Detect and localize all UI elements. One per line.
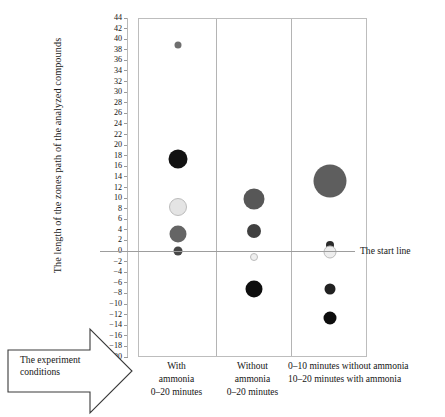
data-bubble bbox=[247, 224, 261, 238]
y-axis-title: The length of the zones path of the anal… bbox=[52, 16, 63, 296]
y-tick-label: 8 bbox=[118, 204, 124, 212]
y-tick-label: 20 bbox=[114, 141, 124, 149]
y-tick-label: 10 bbox=[114, 194, 124, 202]
data-bubble bbox=[313, 164, 346, 197]
data-bubble bbox=[168, 150, 187, 169]
data-bubble bbox=[323, 246, 336, 259]
figure-root: The length of the zones path of the anal… bbox=[0, 0, 445, 417]
y-tick-label: 2 bbox=[118, 236, 124, 244]
experiment-conditions-label: The experiment conditions bbox=[20, 354, 98, 379]
x-axis-category-line: 0–10 minutes without ammonia bbox=[288, 360, 445, 373]
y-tick-label: 14 bbox=[114, 172, 124, 180]
y-tick-label: −12 bbox=[109, 310, 124, 318]
x-axis-labels: Withammonia0–20 minutesWithoutammonia0–2… bbox=[138, 360, 367, 417]
y-tick-label: 6 bbox=[118, 215, 124, 223]
x-axis-category-line: ammonia bbox=[206, 373, 299, 386]
y-tick-label: 28 bbox=[114, 98, 124, 106]
x-axis-category-3: 0–10 minutes without ammonia10–20 minute… bbox=[288, 360, 445, 386]
y-tick-label: 40 bbox=[114, 35, 124, 43]
y-tick-label: −4 bbox=[113, 268, 124, 276]
y-tick-label: 38 bbox=[114, 45, 124, 53]
data-bubble bbox=[174, 42, 181, 49]
y-tick-label: 4 bbox=[118, 225, 124, 233]
plot-area bbox=[138, 18, 367, 357]
y-tick-label: 26 bbox=[114, 109, 124, 117]
x-axis-category-line: 10–20 minutes with ammonia bbox=[288, 373, 445, 386]
y-axis-line bbox=[127, 18, 128, 357]
experiment-conditions-arrow: The experiment conditions bbox=[6, 326, 134, 416]
y-tick-label: −10 bbox=[109, 300, 124, 308]
y-tick-label: 32 bbox=[114, 77, 124, 85]
data-bubble bbox=[169, 225, 186, 242]
data-bubble bbox=[243, 189, 264, 210]
y-tick-label: 12 bbox=[114, 183, 124, 191]
data-bubble bbox=[323, 312, 336, 325]
y-tick-label: 16 bbox=[114, 162, 124, 170]
data-bubble bbox=[245, 281, 262, 298]
y-tick-label: −2 bbox=[113, 257, 124, 265]
data-bubble bbox=[324, 284, 335, 295]
y-tick-label: 34 bbox=[114, 66, 124, 74]
y-tick-label: 44 bbox=[114, 14, 124, 22]
y-tick-label: 36 bbox=[114, 56, 124, 64]
data-bubble bbox=[250, 253, 258, 261]
y-axis-ticks: 4442403836343230282624222018161412108642… bbox=[82, 18, 128, 357]
y-tick-label: −8 bbox=[113, 289, 124, 297]
y-tick-label: 42 bbox=[114, 24, 124, 32]
start-line-tick bbox=[124, 251, 130, 252]
y-tick-label: 18 bbox=[114, 151, 124, 159]
start-line-label: The start line bbox=[360, 245, 411, 256]
data-bubble bbox=[169, 198, 187, 216]
column-divider-2 bbox=[291, 19, 292, 356]
x-axis-category-line: 0–20 minutes bbox=[206, 386, 299, 399]
y-tick-label: 24 bbox=[114, 119, 124, 127]
start-line bbox=[100, 251, 355, 252]
y-tick-label: 22 bbox=[114, 130, 124, 138]
y-tick-label: 30 bbox=[114, 88, 124, 96]
x-axis-category-line: Without bbox=[206, 360, 299, 373]
column-divider-1 bbox=[216, 19, 217, 356]
y-tick-label: −6 bbox=[113, 278, 124, 286]
x-axis-category-2: Withoutammonia0–20 minutes bbox=[206, 360, 299, 400]
